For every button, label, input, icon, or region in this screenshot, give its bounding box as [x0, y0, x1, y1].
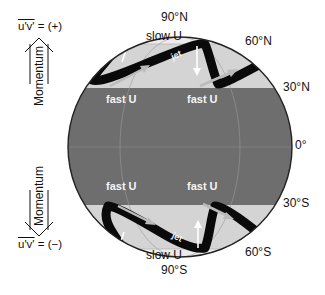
south-slow-u-label: slow U — [146, 248, 182, 262]
south-fast-u-label-2: fast U — [187, 180, 218, 192]
lat-30s-label: 30°S — [283, 196, 309, 210]
north-slow-u-label: slow U — [146, 29, 182, 43]
lat-90s-label: 90°S — [161, 263, 187, 277]
flux-sign-bottom: = (−) — [35, 238, 62, 250]
lat-eq-label: 0° — [295, 138, 306, 152]
north-jet-arrowhead — [258, 54, 278, 70]
momentum-down-label: Momentum — [32, 166, 46, 226]
lat-30n-label: 30°N — [283, 80, 310, 94]
flux-symbol-bottom: u'v' — [18, 238, 35, 250]
flux-symbol-top: u'v' — [18, 20, 35, 32]
north-fast-u-label-1: fast U — [106, 93, 137, 105]
momentum-up-label: Momentum — [32, 46, 46, 106]
lat-60n-label: 60°N — [245, 34, 272, 48]
south-fast-u-label-1: fast U — [106, 180, 137, 192]
flux-negative-label: u'v' = (−) — [18, 238, 62, 250]
north-fast-u-label-2: fast U — [187, 93, 218, 105]
flux-sign-top: = (+) — [35, 20, 62, 32]
flux-positive-label: u'v' = (+) — [18, 20, 62, 32]
lat-90n-label: 90°N — [161, 10, 188, 24]
tropics-band — [60, 88, 300, 205]
lat-60s-label: 60°S — [245, 245, 271, 259]
